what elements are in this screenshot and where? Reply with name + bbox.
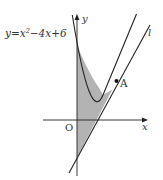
line-l-label: l (148, 27, 151, 38)
curve-label: y=x2−4x+6 (4, 27, 67, 39)
y-axis-arrow-icon (75, 14, 80, 20)
point-a-label: A (119, 77, 128, 89)
origin-label: O (65, 122, 73, 133)
diagram-canvas: y=x2−4x+6 y x O A l (0, 0, 163, 180)
x-axis-label: x (142, 121, 148, 132)
point-a (115, 79, 119, 83)
y-axis-label: y (81, 13, 88, 24)
